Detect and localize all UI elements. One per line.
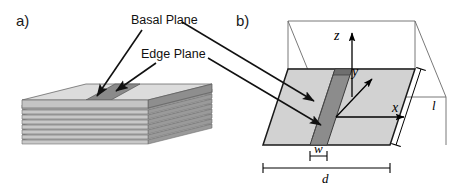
z-axis-label: z (333, 28, 340, 43)
panel-a-letter: a) (16, 12, 29, 29)
panel-b-letter: b) (236, 12, 249, 29)
panel-a-group: a) (16, 12, 212, 144)
panel-b-group: b) z (182, 12, 446, 186)
graphite-sheet-stack (22, 84, 212, 144)
figure-svg: a) (0, 0, 453, 186)
figure-container: a) (0, 0, 453, 186)
edge-plane-label: Edge Plane (141, 47, 206, 61)
edge-plane-strip-ridge (333, 69, 352, 75)
l-dimension-label: l (432, 98, 436, 113)
w-dimension-label: w (314, 141, 323, 156)
x-axis-label: x (391, 100, 399, 115)
y-axis-label: y (350, 64, 359, 79)
d-dimension-label: d (322, 171, 329, 186)
